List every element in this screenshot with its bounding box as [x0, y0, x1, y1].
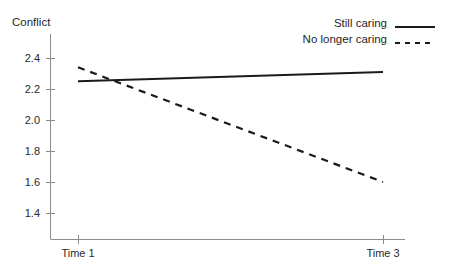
legend-item-label: No longer caring	[303, 32, 387, 46]
y-axis-tick-label: 2.4	[6, 53, 40, 64]
series-line-still-caring	[78, 72, 383, 81]
legend-item: Still caring	[303, 16, 435, 30]
x-axis-tick-label: Time 3	[366, 248, 399, 259]
legend-item-label: Still caring	[334, 16, 387, 30]
y-axis-tick-label: 2.0	[6, 115, 40, 126]
x-axis-tick-label: Time 1	[61, 248, 94, 259]
y-axis-tick-label: 2.2	[6, 84, 40, 95]
chart-figure: Conflict 2.42.22.01.81.61.4 Time 1Time 3…	[0, 0, 449, 278]
y-axis-tick-label: 1.6	[6, 177, 40, 188]
legend-key-dashed-line	[395, 34, 435, 44]
chart-legend: Still caringNo longer caring	[303, 16, 435, 46]
series-line-no-longer-caring	[78, 67, 383, 182]
y-axis-tick-label: 1.8	[6, 146, 40, 157]
legend-item: No longer caring	[303, 32, 435, 46]
legend-key-solid-line	[395, 18, 435, 28]
y-axis-tick-label: 1.4	[6, 208, 40, 219]
